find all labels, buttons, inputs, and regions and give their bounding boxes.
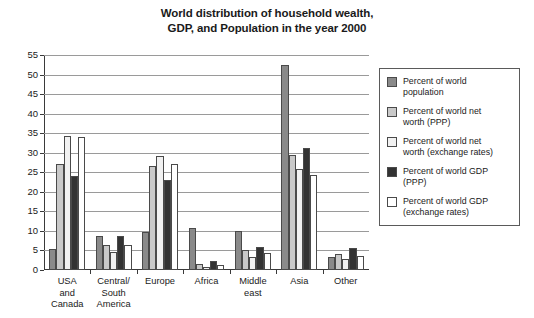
y-tick-label-5: 5 (2, 245, 38, 254)
bar-group (137, 55, 183, 270)
bar (328, 257, 335, 270)
bar (235, 231, 242, 270)
bar (210, 261, 217, 270)
legend-item[interactable]: Percent of world GDP(exchange rates) (387, 196, 513, 217)
y-tick-label-20: 20 (2, 187, 38, 196)
x-axis-separator (323, 270, 324, 274)
legend-label-line: population (403, 87, 467, 98)
bar (249, 257, 256, 270)
x-axis-label-line: Africa (183, 276, 229, 288)
legend-swatch-icon (387, 137, 397, 147)
y-tick-mark-0 (40, 270, 44, 271)
legend-label-line: (exchange rates) (403, 207, 488, 218)
bar (103, 245, 110, 270)
y-tick-label-10: 10 (2, 226, 38, 235)
bar (156, 156, 163, 270)
bar (242, 250, 249, 270)
legend-item[interactable]: Percent of world networth (exchange rate… (387, 136, 513, 157)
legend-label-line: Percent of world net (403, 136, 493, 147)
x-axis-separator (183, 270, 184, 274)
y-tick-label-25: 25 (2, 167, 38, 176)
x-axis-label-line: Other (323, 276, 369, 288)
chart-title: World distribution of household wealth, … (0, 6, 534, 36)
x-axis-separator (90, 270, 91, 274)
legend-label-line: (PPP) (403, 177, 488, 188)
x-axis-label: Europe (137, 276, 183, 311)
bar (335, 254, 342, 270)
x-axis-label-line: USA (44, 276, 90, 288)
legend-label: Percent of worldpopulation (403, 76, 467, 97)
bar-group (183, 55, 229, 270)
x-axis-label: Asia (276, 276, 322, 311)
bar (164, 180, 171, 270)
bar (289, 155, 296, 270)
legend-label: Percent of world GDP(exchange rates) (403, 196, 488, 217)
bar (357, 256, 364, 270)
legend-swatch-icon (387, 107, 397, 117)
x-axis-label: Central/SouthAmerica (90, 276, 136, 311)
bar (256, 247, 263, 270)
legend-swatch-icon (387, 197, 397, 207)
bar (64, 136, 71, 270)
y-tick-label-35: 35 (2, 128, 38, 137)
y-tick-label-0: 0 (2, 265, 38, 274)
x-axis-label: USAandCanada (44, 276, 90, 311)
x-axis-labels: USAandCanadaCentral/SouthAmericaEuropeAf… (44, 276, 369, 311)
y-tick-label-55: 55 (2, 50, 38, 59)
legend-label-line: Percent of world GDP (403, 196, 488, 207)
x-axis-label-line: America (90, 299, 136, 311)
y-tick-label-15: 15 (2, 206, 38, 215)
bar-group (323, 55, 369, 270)
x-axis-label-line: Middle (230, 276, 276, 288)
legend-label: Percent of world networth (exchange rate… (403, 136, 493, 157)
bar (296, 169, 303, 270)
legend-label: Percent of world GDP(PPP) (403, 166, 488, 187)
bar (56, 164, 63, 270)
x-axis-separator (230, 270, 231, 274)
bar (196, 264, 203, 270)
x-axis-label-line: South (90, 288, 136, 300)
bar-group (276, 55, 322, 270)
legend-item[interactable]: Percent of world GDP(PPP) (387, 166, 513, 187)
y-tick-label-50: 50 (2, 70, 38, 79)
bar (217, 265, 224, 270)
legend-label-line: Percent of world GDP (403, 166, 488, 177)
bar (149, 166, 156, 270)
legend-swatch-icon (387, 167, 397, 177)
bar-group (230, 55, 276, 270)
x-axis-label-line: and (44, 288, 90, 300)
legend-label-line: Percent of world (403, 76, 467, 87)
bar (281, 65, 288, 270)
y-tick-label-40: 40 (2, 109, 38, 118)
bar-groups (44, 55, 369, 270)
bar-group (44, 55, 90, 270)
legend-swatch-icon (387, 77, 397, 87)
bar (110, 252, 117, 270)
x-axis-separator (276, 270, 277, 274)
bar (310, 175, 317, 270)
chart-legend: Percent of worldpopulationPercent of wor… (379, 68, 520, 226)
legend-label-line: Percent of world net (403, 106, 481, 117)
legend-label: Percent of world networth (PPP) (403, 106, 481, 127)
bar (49, 249, 56, 270)
x-axis-label-line: Asia (276, 276, 322, 288)
x-axis-separator (137, 270, 138, 274)
bar (171, 164, 178, 270)
x-axis-label: Africa (183, 276, 229, 311)
bar (124, 245, 131, 270)
plot-area: 0510152025303540455055 (44, 55, 369, 270)
legend-item[interactable]: Percent of worldpopulation (387, 76, 513, 97)
x-axis-label-line: Canada (44, 299, 90, 311)
bar (117, 236, 124, 270)
bar (142, 232, 149, 270)
bar (303, 148, 310, 270)
x-axis-label-line: east (230, 288, 276, 300)
chart-title-line-1: World distribution of household wealth, (0, 6, 534, 21)
legend-item[interactable]: Percent of world networth (PPP) (387, 106, 513, 127)
bar (71, 176, 78, 270)
legend-label-line: worth (exchange rates) (403, 147, 493, 158)
bar (342, 259, 349, 270)
bar (96, 236, 103, 270)
y-tick-label-45: 45 (2, 89, 38, 98)
bar (264, 253, 271, 270)
